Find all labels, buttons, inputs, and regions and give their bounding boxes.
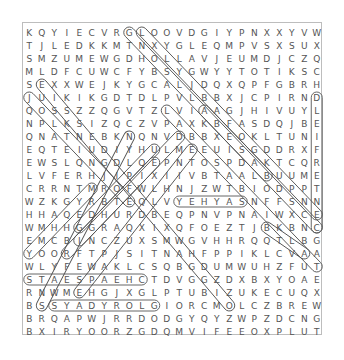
letter-cell[interactable]: D — [261, 117, 274, 130]
letter-cell[interactable]: V — [148, 117, 161, 130]
letter-cell[interactable]: V — [186, 169, 199, 182]
letter-cell[interactable]: L — [286, 325, 299, 338]
letter-cell[interactable]: D — [186, 26, 199, 39]
letter-cell[interactable]: I — [136, 247, 149, 260]
letter-cell[interactable]: O — [36, 104, 49, 117]
letter-cell[interactable]: X — [148, 39, 161, 52]
letter-cell[interactable]: T — [273, 234, 286, 247]
letter-cell[interactable]: P — [211, 247, 224, 260]
letter-cell[interactable]: G — [111, 104, 124, 117]
letter-cell[interactable]: Q — [48, 312, 61, 325]
letter-cell[interactable]: G — [98, 156, 111, 169]
letter-cell[interactable]: X — [48, 78, 61, 91]
letter-cell[interactable]: E — [23, 234, 36, 247]
letter-cell[interactable]: N — [298, 91, 311, 104]
letter-cell[interactable]: K — [111, 130, 124, 143]
letter-cell[interactable]: F — [286, 260, 299, 273]
letter-cell[interactable]: C — [111, 65, 124, 78]
letter-cell[interactable]: Z — [148, 104, 161, 117]
letter-grid[interactable]: KQYIECVRGLOOVDGIYPNXXYVWTJLEDKKMTNXYGLEQ… — [23, 26, 323, 338]
letter-cell[interactable]: M — [73, 52, 86, 65]
letter-cell[interactable]: H — [261, 260, 274, 273]
letter-cell[interactable]: L — [161, 52, 174, 65]
letter-cell[interactable]: Z — [223, 286, 236, 299]
letter-cell[interactable]: L — [148, 182, 161, 195]
letter-cell[interactable]: E — [311, 169, 324, 182]
letter-cell[interactable]: M — [111, 39, 124, 52]
letter-cell[interactable]: H — [136, 52, 149, 65]
letter-cell[interactable]: S — [286, 39, 299, 52]
letter-cell[interactable]: Z — [111, 234, 124, 247]
letter-cell[interactable]: B — [248, 273, 261, 286]
letter-cell[interactable]: E — [73, 286, 86, 299]
letter-cell[interactable]: T — [36, 273, 49, 286]
letter-cell[interactable]: V — [198, 52, 211, 65]
letter-cell[interactable]: F — [123, 65, 136, 78]
letter-cell[interactable]: P — [186, 208, 199, 221]
letter-cell[interactable]: H — [36, 208, 49, 221]
letter-cell[interactable]: W — [311, 26, 324, 39]
letter-cell[interactable]: P — [123, 169, 136, 182]
letter-cell[interactable]: J — [186, 182, 199, 195]
letter-cell[interactable]: Q — [248, 234, 261, 247]
letter-cell[interactable]: G — [148, 299, 161, 312]
letter-cell[interactable]: H — [86, 286, 99, 299]
letter-cell[interactable]: N — [298, 312, 311, 325]
letter-cell[interactable]: O — [123, 299, 136, 312]
letter-cell[interactable]: K — [61, 91, 74, 104]
letter-cell[interactable]: L — [36, 260, 49, 273]
letter-cell[interactable]: P — [161, 91, 174, 104]
letter-cell[interactable]: G — [248, 143, 261, 156]
letter-cell[interactable]: G — [136, 78, 149, 91]
letter-cell[interactable]: E — [73, 260, 86, 273]
letter-cell[interactable]: B — [98, 195, 111, 208]
letter-cell[interactable]: C — [136, 273, 149, 286]
letter-cell[interactable]: N — [136, 39, 149, 52]
letter-cell[interactable]: J — [111, 247, 124, 260]
letter-cell[interactable]: N — [148, 130, 161, 143]
letter-cell[interactable]: B — [273, 299, 286, 312]
letter-cell[interactable]: H — [86, 169, 99, 182]
letter-cell[interactable]: C — [23, 182, 36, 195]
letter-cell[interactable]: S — [248, 117, 261, 130]
letter-cell[interactable]: T — [211, 169, 224, 182]
letter-cell[interactable]: E — [186, 195, 199, 208]
letter-cell[interactable]: M — [36, 234, 49, 247]
letter-cell[interactable]: Q — [298, 286, 311, 299]
letter-cell[interactable]: I — [311, 130, 324, 143]
letter-cell[interactable]: T — [123, 91, 136, 104]
letter-cell[interactable]: R — [286, 143, 299, 156]
letter-cell[interactable]: S — [211, 156, 224, 169]
letter-cell[interactable]: E — [298, 299, 311, 312]
letter-cell[interactable]: E — [261, 286, 274, 299]
letter-cell[interactable]: F — [311, 143, 324, 156]
letter-cell[interactable]: Q — [161, 260, 174, 273]
letter-cell[interactable]: N — [236, 208, 249, 221]
letter-cell[interactable]: J — [23, 91, 36, 104]
letter-cell[interactable]: C — [311, 65, 324, 78]
letter-cell[interactable]: P — [223, 208, 236, 221]
letter-cell[interactable]: E — [73, 26, 86, 39]
letter-cell[interactable]: V — [173, 26, 186, 39]
letter-cell[interactable]: J — [111, 286, 124, 299]
letter-cell[interactable]: A — [48, 273, 61, 286]
letter-cell[interactable]: W — [23, 221, 36, 234]
letter-cell[interactable]: O — [98, 325, 111, 338]
letter-cell[interactable]: D — [123, 52, 136, 65]
letter-cell[interactable]: K — [86, 39, 99, 52]
letter-cell[interactable]: P — [236, 39, 249, 52]
letter-cell[interactable]: O — [148, 26, 161, 39]
letter-cell[interactable]: Y — [48, 260, 61, 273]
letter-cell[interactable]: S — [23, 78, 36, 91]
letter-cell[interactable]: A — [223, 195, 236, 208]
letter-cell[interactable]: T — [23, 39, 36, 52]
letter-cell[interactable]: D — [273, 143, 286, 156]
letter-cell[interactable]: U — [286, 104, 299, 117]
letter-cell[interactable]: R — [98, 221, 111, 234]
letter-cell[interactable]: J — [273, 52, 286, 65]
letter-cell[interactable]: Q — [211, 39, 224, 52]
letter-cell[interactable]: B — [286, 221, 299, 234]
letter-cell[interactable]: C — [48, 234, 61, 247]
letter-cell[interactable]: V — [211, 208, 224, 221]
letter-cell[interactable]: Z — [136, 117, 149, 130]
